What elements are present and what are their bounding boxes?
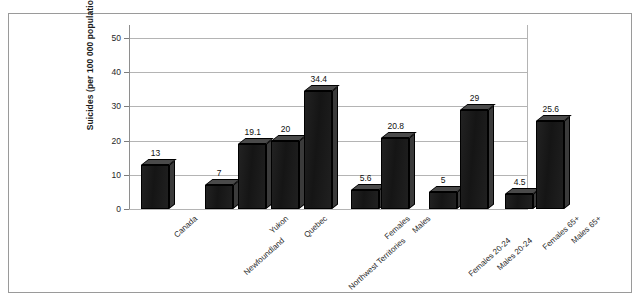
bar-front-face (304, 91, 332, 209)
bar-front-face (351, 190, 379, 209)
y-tick-label-0: 0 (97, 204, 121, 214)
y-tick-mark-20 (124, 141, 129, 142)
x-axis-label: Northwest Territories (347, 236, 407, 292)
y-tick-label-10: 10 (97, 170, 121, 180)
bar-front-face (238, 144, 266, 209)
bar-front-face (429, 192, 457, 209)
bar: 29 (460, 110, 488, 209)
x-axis-label: Canada (172, 214, 199, 239)
bar-front-face (271, 141, 299, 209)
bar-value-label: 25.6 (543, 104, 560, 114)
x-axis-label: Newfoundland (242, 236, 286, 277)
plot-right-border (527, 25, 528, 209)
bar-front-face (536, 121, 564, 209)
bar: 34.4 (304, 91, 332, 209)
bar-side-face (332, 87, 338, 209)
bar-value-label: 4.5 (514, 177, 526, 187)
gridline-40 (129, 72, 528, 73)
bar: 20.8 (381, 138, 409, 209)
figure-frame: Suicides (per 100 000 population) 010203… (8, 13, 632, 293)
gridline-50 (129, 38, 528, 39)
y-axis-title: Suicides (per 100 000 population) (83, 0, 97, 156)
bar-value-label: 5 (441, 175, 446, 185)
x-axis-labels: CanadaNewfoundlandYukonQuebecNorthwest T… (129, 209, 528, 304)
bar-front-face (460, 110, 488, 209)
bar: 5.6 (351, 190, 379, 209)
bar-value-label: 7 (217, 168, 222, 178)
bar-value-label: 29 (470, 93, 479, 103)
bar-side-face (409, 133, 415, 209)
y-tick-mark-40 (124, 72, 129, 73)
bar-value-label: 20.8 (388, 121, 405, 131)
bar-side-face (169, 160, 175, 209)
bar: 25.6 (536, 121, 564, 209)
bar-value-label: 19.1 (245, 127, 262, 137)
y-tick-label-40: 40 (97, 67, 121, 77)
y-tick-label-20: 20 (97, 136, 121, 146)
bar-front-face (205, 185, 233, 209)
chart-page: Suicides (per 100 000 population) 010203… (0, 0, 642, 304)
y-tick-mark-10 (124, 175, 129, 176)
x-axis-label: Females (383, 214, 412, 241)
y-tick-mark-50 (124, 38, 129, 39)
bar-front-face (505, 194, 533, 209)
bar-value-label: 20 (281, 124, 290, 134)
bar-value-label: 34.4 (311, 74, 328, 84)
bar: 5 (429, 192, 457, 209)
y-tick-label-30: 30 (97, 101, 121, 111)
y-tick-label-50: 50 (97, 33, 121, 43)
bar: 13 (141, 165, 169, 209)
x-axis-label: Quebec (302, 214, 329, 239)
x-axis-label: Yukon (268, 214, 291, 236)
bar-front-face (141, 165, 169, 209)
bar-side-face (564, 117, 570, 209)
bar-value-label: 5.6 (360, 173, 372, 183)
y-axis-line (129, 25, 130, 209)
bar: 19.1 (238, 144, 266, 209)
bar: 7 (205, 185, 233, 209)
bar: 20 (271, 141, 299, 209)
bar-side-face (488, 105, 494, 209)
y-tick-mark-30 (124, 106, 129, 107)
bar-front-face (381, 138, 409, 209)
plot-area: 01020304050 13719.12034.45.620.85294.525… (129, 25, 528, 209)
bar-value-label: 13 (151, 148, 160, 158)
x-axis-label: Males (410, 214, 432, 235)
bar: 4.5 (505, 194, 533, 209)
